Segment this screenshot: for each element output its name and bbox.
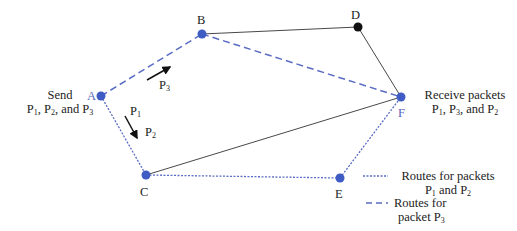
receive-packets: P1, P3, and P2 <box>415 102 515 116</box>
route-p3-B-F <box>202 34 401 97</box>
legend-dotted-title: Routes for packets <box>388 169 508 183</box>
route-p12-C-E <box>146 175 340 178</box>
arrow-label-p2: P2 <box>145 125 156 139</box>
node-B <box>198 30 207 39</box>
node-label-D: D <box>351 8 360 22</box>
legend-dotted-text: Routes for packets P1 and P2 <box>388 169 508 197</box>
node-label-E: E <box>335 187 343 201</box>
send-label: Send P1, P2, and P3 <box>20 88 100 116</box>
send-packets: P1, P2, and P3 <box>20 102 100 116</box>
node-label-B: B <box>197 13 205 27</box>
route-p12-E-F <box>340 97 401 178</box>
legend-dashed-title: Routes for <box>394 196 446 210</box>
receive-title: Receive packets <box>415 88 515 102</box>
arrow-label-p1: P1 <box>130 104 141 118</box>
node-D <box>354 23 363 32</box>
route-p3-A-B <box>101 34 202 96</box>
node-F <box>397 93 406 102</box>
node-E <box>336 174 345 183</box>
link-D-F <box>358 27 401 97</box>
node-label-C: C <box>140 185 148 199</box>
legend-dashed-packet: packet P3 <box>394 210 446 224</box>
arrow-label-p3: P3 <box>159 78 170 92</box>
arrow-p12-icon <box>125 116 137 138</box>
node-label-F: F <box>398 106 405 120</box>
receive-label: Receive packets P1, P3, and P2 <box>415 88 515 116</box>
legend-dotted-packets: P1 and P2 <box>388 183 508 197</box>
legend-dashed-text: Routes for packet P3 <box>394 196 446 224</box>
send-title: Send <box>20 88 100 102</box>
node-C <box>142 171 151 180</box>
link-B-D <box>202 27 358 34</box>
link-C-F <box>146 97 401 175</box>
